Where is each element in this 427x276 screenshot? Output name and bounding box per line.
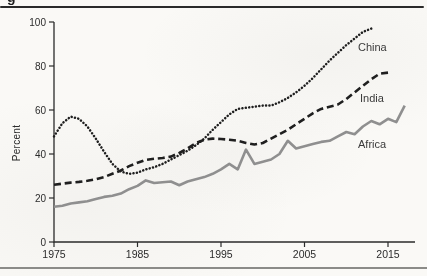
scanned-line-chart-figure: g 02040608010019751985199520052015 Perce…: [0, 0, 427, 276]
series-label-africa: Africa: [358, 138, 386, 150]
y-tick-label: 20: [35, 193, 47, 204]
y-tick-label: 80: [35, 61, 47, 72]
axes: [54, 22, 415, 242]
x-tick-label: 1985: [126, 248, 150, 260]
y-axis-title: Percent: [11, 125, 22, 162]
y-tick-label: 100: [29, 17, 46, 28]
series-line-china: [54, 29, 371, 174]
x-tick-label: 2015: [376, 248, 400, 260]
series-label-china: China: [358, 41, 387, 53]
y-tick-label: 40: [35, 149, 47, 160]
x-tick-label: 1995: [209, 248, 233, 260]
y-tick-label: 0: [40, 237, 46, 248]
series-label-india: India: [360, 92, 384, 104]
bottom-divider-line: [0, 267, 427, 269]
x-tick-label: 1975: [42, 248, 66, 260]
x-tick-label: 2005: [293, 248, 317, 260]
y-tick-label: 60: [35, 105, 47, 116]
